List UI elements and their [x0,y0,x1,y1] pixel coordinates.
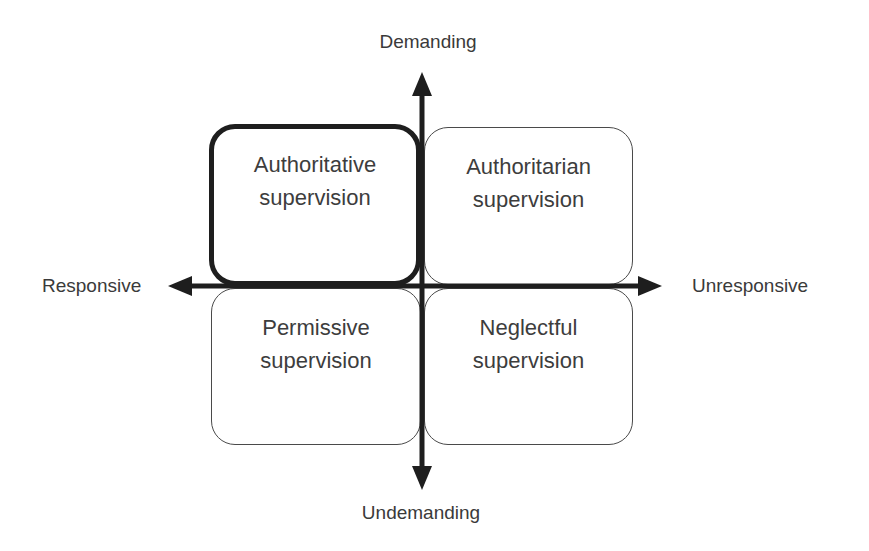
quadrant-permissive: Permissive supervision [211,288,421,445]
quadrant-title: Authoritative [214,148,416,181]
axis-label-demanding: Demanding [379,31,476,53]
quadrant-authoritative: Authoritative supervision [209,124,421,286]
quadrant-subtitle: supervision [425,183,632,216]
quadrant-subtitle: supervision [212,344,420,377]
axis-label-unresponsive: Unresponsive [692,275,808,297]
arrow-up-icon [412,72,432,96]
quadrant-subtitle: supervision [425,344,632,377]
arrow-down-icon [412,466,432,490]
quadrant-title: Permissive [212,311,420,344]
quadrant-subtitle: supervision [214,181,416,214]
axis-label-responsive: Responsive [42,275,141,297]
quadrant-neglectful: Neglectful supervision [424,288,633,445]
quadrant-authoritarian: Authoritarian supervision [424,127,633,285]
arrow-left-icon [168,276,192,296]
quadrant-title: Authoritarian [425,150,632,183]
quadrant-title: Neglectful [425,311,632,344]
axis-label-undemanding: Undemanding [362,502,480,524]
arrow-right-icon [638,276,662,296]
